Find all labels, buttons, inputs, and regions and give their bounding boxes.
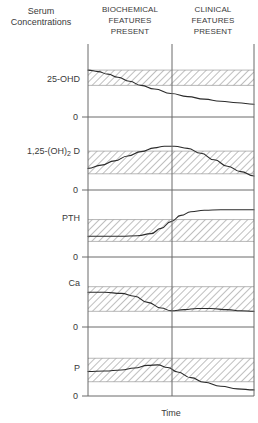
serum-concentration-figure: Serum Concentrations BIOCHEMICAL FEATURE… bbox=[0, 0, 258, 423]
plot-area bbox=[0, 0, 258, 423]
